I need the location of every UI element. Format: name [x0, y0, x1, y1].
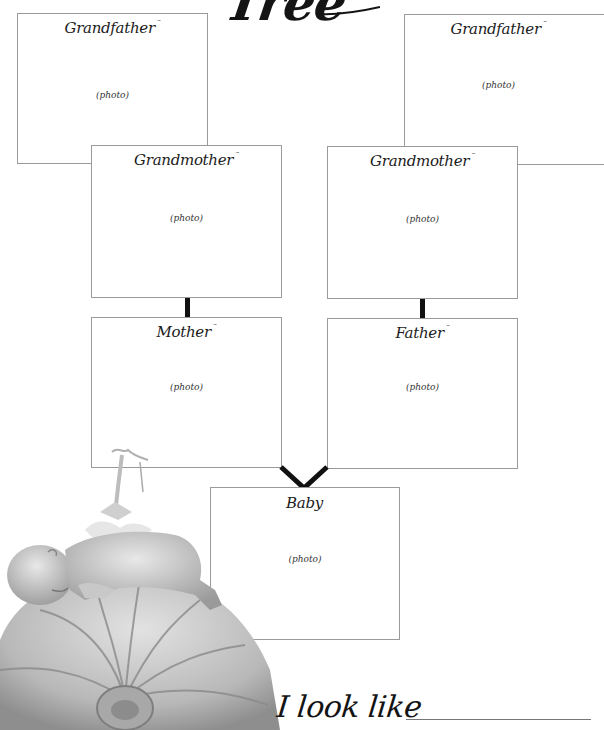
grandmother-left-photo-placeholder: (photo) [92, 213, 281, 223]
mother-label: Mother [92, 322, 281, 341]
left-tie-line [17, 163, 91, 164]
grandfather-left-label: Grandfather [18, 18, 207, 37]
father-label: Father [328, 323, 517, 342]
grandfather-right-photo-placeholder: (photo) [405, 80, 592, 90]
baby-on-pumpkin-illustration [0, 440, 290, 730]
grandfather-right-label: Grandfather [405, 19, 592, 38]
grandmother-right-label: Grandmother [328, 151, 517, 170]
father-photo-placeholder: (photo) [328, 382, 517, 392]
grandfather-left-photo-box[interactable]: Grandfather (photo) [17, 13, 208, 164]
grandfather-right-photo-box[interactable]: Grandfather (photo) [404, 14, 604, 165]
mother-photo-placeholder: (photo) [92, 382, 281, 392]
grandmother-right-photo-box[interactable]: Grandmother (photo) [327, 146, 518, 299]
grandmother-left-photo-box[interactable]: Grandmother (photo) [91, 145, 282, 298]
i-look-like-prompt: I look like [275, 692, 423, 722]
connector-left-vertical [185, 298, 190, 318]
grandmother-right-photo-placeholder: (photo) [328, 214, 517, 224]
grandfather-left-photo-placeholder: (photo) [18, 90, 207, 100]
grandmother-left-label: Grandmother [92, 150, 281, 169]
connector-right-vertical [420, 299, 425, 319]
father-photo-box[interactable]: Father (photo) [327, 318, 518, 469]
title-swash-decoration [318, 6, 380, 16]
right-tie-line [517, 164, 591, 165]
i-look-like-answer-line[interactable] [406, 719, 591, 720]
